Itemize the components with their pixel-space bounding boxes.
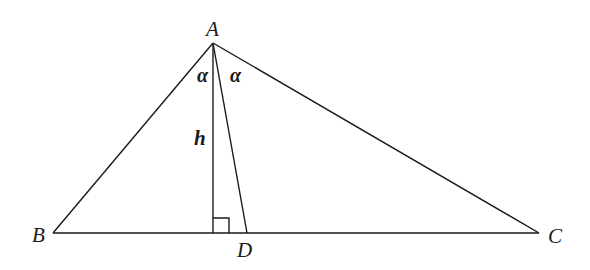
label-vertex-c: C bbox=[548, 224, 563, 248]
triangle-diagram: A B C D h α α bbox=[0, 0, 590, 270]
right-angle-marker bbox=[213, 218, 229, 233]
side-ab bbox=[53, 43, 213, 233]
label-height-h: h bbox=[194, 126, 206, 150]
label-vertex-a: A bbox=[204, 17, 219, 41]
label-angle-alpha-right: α bbox=[230, 64, 242, 86]
diagram-canvas: A B C D h α α bbox=[0, 0, 590, 270]
label-vertex-b: B bbox=[32, 223, 45, 247]
label-point-d: D bbox=[236, 238, 252, 262]
label-angle-alpha-left: α bbox=[197, 64, 209, 86]
side-ac bbox=[213, 43, 539, 233]
